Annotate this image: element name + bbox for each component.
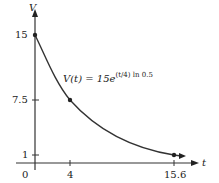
y-axis-label: V [29,3,36,13]
y-tick-label-1: 1 [22,150,28,160]
y-tick-label-15: 15 [15,30,28,40]
x-tick-label-0: 0 [22,170,28,180]
point-15-6-1 [172,153,176,157]
point-0-15 [33,33,37,37]
x-tick-label-4: 4 [67,170,73,180]
curve-arrow-icon [179,153,186,159]
equation-exponent: (t/4) ln 0.5 [115,71,152,79]
x-tick-label-15-6: 15.6 [164,170,186,180]
x-axis-arrow-icon [191,160,199,166]
chart-canvas [0,0,219,183]
y-tick-label-7-5: 7.5 [12,95,28,105]
equation-main: V(t) = 15e [63,73,115,84]
x-axis-label: t [202,158,206,168]
point-4-7-5 [68,98,72,102]
equation-label: V(t) = 15e(t/4) ln 0.5 [63,70,153,84]
decay-curve [35,35,181,156]
